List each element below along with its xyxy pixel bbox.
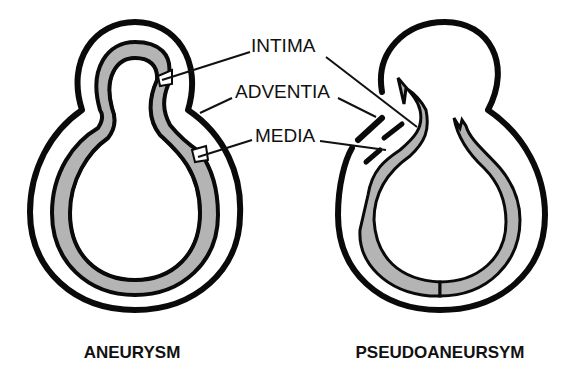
pseudoaneurysm-media-left <box>360 78 440 296</box>
pseudoaneurysm-media-stub-lower <box>366 150 380 162</box>
aneurysm-vs-pseudoaneurysm-diagram: ANEURYSM PSEUDOANEURSYM INTIMA ADVENTIA … <box>0 0 567 378</box>
pseudoaneurysm-panel: PSEUDOANEURSYM <box>338 22 545 362</box>
pseudoaneurysm-title: PSEUDOANEURSYM <box>355 343 524 362</box>
pseudoaneurysm-media-stub <box>384 124 402 138</box>
pseudoaneurysm-adventitia-stub <box>358 118 382 140</box>
leader-adventitia-pseudoaneurysm <box>338 98 376 117</box>
label-adventitia: ADVENTIA <box>235 81 330 102</box>
pseudoaneurysm-media-right <box>440 118 520 296</box>
pseudoaneurysm-sac-wall <box>338 22 545 310</box>
aneurysm-intima-line <box>70 58 200 280</box>
aneurysm-panel: ANEURYSM <box>30 22 240 362</box>
leader-adventitia-aneurysm <box>200 98 232 113</box>
label-intima: INTIMA <box>251 35 316 56</box>
leader-intima-aneurysm <box>162 52 250 80</box>
label-media: MEDIA <box>255 125 316 146</box>
aneurysm-title: ANEURYSM <box>84 343 181 362</box>
layer-labels: INTIMA ADVENTIA MEDIA <box>162 35 417 157</box>
